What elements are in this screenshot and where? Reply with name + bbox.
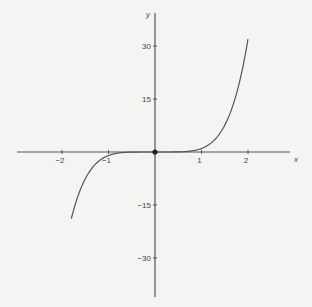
y-tick-label: 15 — [142, 95, 151, 104]
y-tick-label: 30 — [142, 42, 151, 51]
y-tick-label: −30 — [137, 254, 151, 263]
x-tick-label: 2 — [244, 156, 249, 165]
axes — [17, 13, 290, 297]
function-curve — [71, 39, 248, 219]
y-tick-label: −15 — [137, 201, 151, 210]
x-tick-label: 1 — [197, 156, 202, 165]
y-axis-label: y — [145, 10, 151, 19]
x-axis-label: x — [293, 155, 299, 164]
x-tick-label: −2 — [55, 156, 65, 165]
origin-point — [152, 149, 157, 154]
chart: −2−1123015−15−30 x y — [0, 0, 312, 307]
